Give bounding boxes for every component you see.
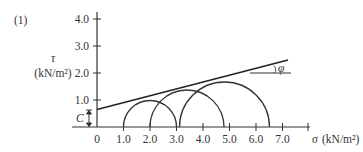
x-axis-unit: (kN/m²) [322,133,359,146]
cohesion-label: C [76,112,84,124]
x-tick-label: 4.0 [196,133,211,145]
phi-label: φ [278,62,285,75]
y-axis-unit: (kN/m²) [34,67,71,80]
phi-angle-arc [274,66,276,73]
failure-envelope [97,60,288,110]
y-tick-label: 4.0 [75,13,90,25]
y-axis-symbol: τ [51,52,56,64]
x-tick-label: 3.0 [169,133,184,145]
x-tick-label: 0 [94,133,100,145]
y-tick-label: 3.0 [75,40,90,52]
figure-label: (1) [14,14,28,27]
mohr-circle-2 [150,90,224,127]
mohr-circle-3 [180,82,270,127]
cohesion-marker [86,110,92,127]
y-tick-label: 1.0 [75,94,90,106]
x-tick-label: 5.0 [222,133,237,145]
x-tick-label: 7.0 [275,133,290,145]
x-tick-label: 1.0 [116,133,131,145]
x-tick-label: 2.0 [143,133,158,145]
y-tick-label: 2.0 [75,67,90,79]
mohr-circle-diagram: (1) τ (kN/m²) 1.0 2.0 3.0 4.0 0 1.0 2.0 … [0,0,363,152]
x-axis-symbol: σ [312,133,319,145]
x-tick-label: 6.0 [249,133,264,145]
